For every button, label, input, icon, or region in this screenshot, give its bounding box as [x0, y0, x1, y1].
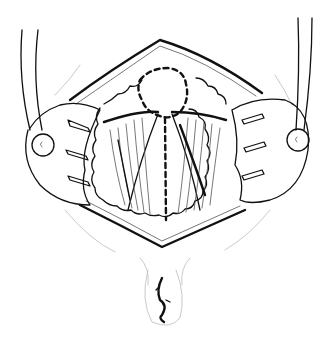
skin-contours — [55, 65, 292, 285]
right-retractor — [232, 18, 312, 203]
dashed-vertical-line — [165, 118, 166, 220]
left-retractor — [21, 30, 100, 205]
surgical-illustration — [0, 0, 328, 343]
dashed-circle — [138, 68, 187, 117]
lower-orifice — [145, 270, 182, 325]
